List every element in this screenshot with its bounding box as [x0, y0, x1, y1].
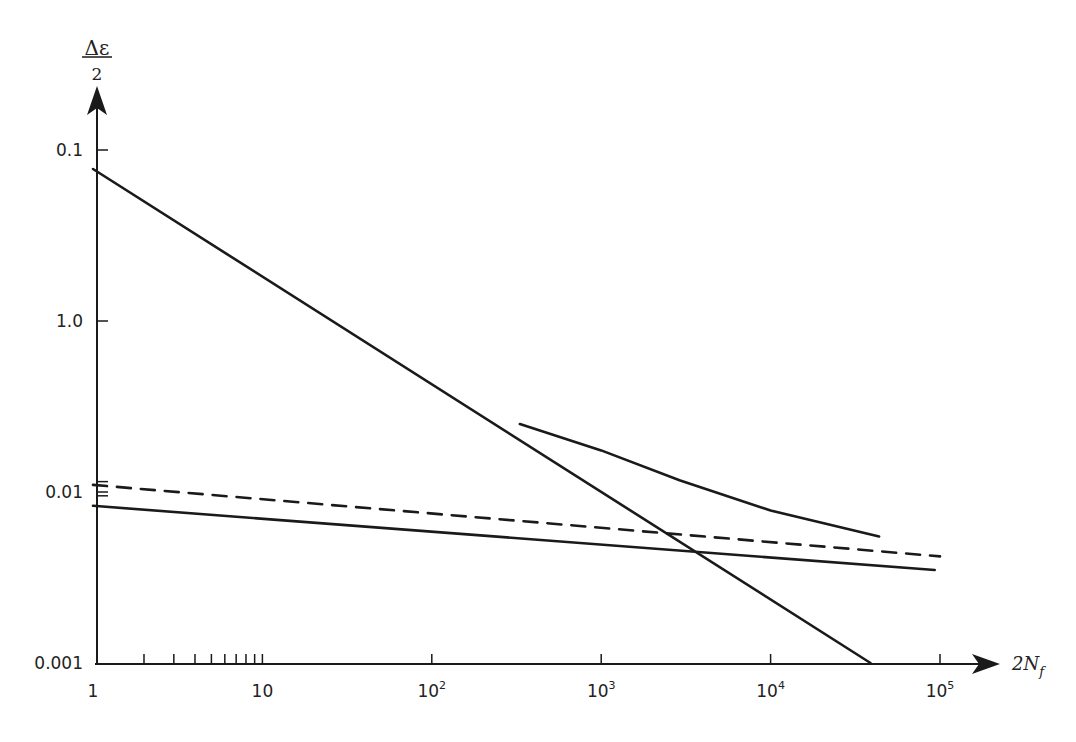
ticks-group: 1101021031041050.11.00.010.001: [34, 140, 954, 701]
x-axis-title: 2Nf: [1011, 653, 1046, 679]
fatigue-strain-life-chart: Δε 2 2Nf 1101021031041050.11.00.010.001: [0, 0, 1076, 742]
y-tick-label: 1.0: [56, 311, 83, 331]
x-tick-label-base: 10: [587, 681, 609, 701]
series-lower-line: [93, 506, 935, 570]
x-tick-label-base: 1: [88, 681, 99, 701]
y-tick-label: 0.01: [45, 482, 83, 502]
x-tick-label: 10: [252, 681, 274, 701]
series-group: [93, 169, 940, 663]
x-tick-label-base: 10: [417, 681, 439, 701]
series-steep-line: [93, 169, 871, 663]
x-tick-label-base: 10: [926, 681, 948, 701]
x-tick-label: 104: [756, 679, 785, 701]
x-tick-label: 105: [926, 679, 955, 701]
x-tick-label-exponent: 5: [947, 679, 954, 692]
x-tick-label: 102: [417, 679, 446, 701]
x-tick-label-exponent: 2: [439, 679, 446, 692]
x-tick-label-base: 10: [252, 681, 274, 701]
x-tick-label-exponent: 3: [609, 679, 616, 692]
x-tick-label: 1: [88, 681, 99, 701]
x-tick-label-base: 10: [756, 681, 778, 701]
x-tick-label: 103: [587, 679, 616, 701]
y-axis-title-denominator: 2: [92, 64, 103, 84]
y-tick-label: 0.1: [56, 140, 83, 160]
x-tick-label-exponent: 4: [778, 679, 785, 692]
y-tick-label: 0.001: [34, 653, 83, 673]
x-axis-title-main: 2N: [1011, 653, 1040, 674]
x-axis-title-subscript: f: [1038, 664, 1046, 679]
series-upper-curve: [520, 424, 879, 536]
